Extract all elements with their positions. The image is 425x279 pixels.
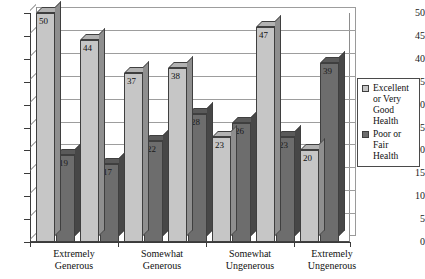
legend-label-line: Poor or — [373, 129, 416, 140]
category-label-line: Generous — [29, 260, 119, 272]
y-axis-tick — [24, 82, 30, 83]
legend-item[interactable]: Poor orFairHealth — [362, 129, 416, 162]
x-axis-category-label: SomewhatGenerous — [117, 248, 207, 272]
legend-item[interactable]: Excellentor VeryGoodHealth — [362, 83, 416, 127]
bar: 37 — [124, 73, 143, 242]
bar-value-label: 23 — [215, 141, 224, 150]
bar-value-label: 44 — [83, 44, 92, 53]
bar-side-face — [319, 138, 325, 236]
bar: 23 — [212, 137, 231, 242]
legend-label-line: Health — [373, 116, 416, 127]
legend-label-line: Health — [373, 151, 416, 162]
legend-item-label: Poor orFairHealth — [373, 129, 416, 162]
legend-label-line: Fair — [373, 140, 416, 151]
bar: 47 — [256, 27, 275, 242]
bar-front-face: 47 — [256, 27, 275, 242]
bar: 50 — [36, 13, 55, 242]
category-label-line: Generous — [117, 260, 207, 272]
gridline — [36, 7, 356, 8]
legend-item-label: Excellentor VeryGoodHealth — [373, 83, 416, 127]
bar-side-face — [119, 152, 125, 236]
category-label-line: Somewhat — [205, 248, 295, 260]
bar-side-face — [295, 125, 301, 236]
category-label-line: Extremely — [287, 248, 377, 260]
bar-value-label: 38 — [171, 72, 180, 81]
y-axis-tick — [24, 128, 30, 129]
bar-front-face: 20 — [300, 150, 319, 242]
x-axis-tick — [294, 243, 295, 247]
legend-swatch-icon — [362, 131, 369, 138]
y-axis-tick-label: 45 — [403, 31, 425, 41]
bar-front-face: 23 — [212, 137, 231, 242]
bar-front-face: 44 — [80, 40, 99, 242]
y-axis-tick-label: 15 — [403, 168, 425, 178]
x-axis-category-label: SomewhatUngenerous — [205, 248, 295, 272]
bar-value-label: 37 — [127, 77, 136, 86]
bar-front-face: 38 — [168, 68, 187, 242]
bar-side-face — [275, 15, 281, 236]
bar-side-face — [99, 28, 105, 236]
legend-label-line: or Very — [373, 94, 416, 105]
bar-side-face — [251, 111, 257, 236]
y-axis-tick — [24, 59, 30, 60]
bar: 44 — [80, 40, 99, 242]
category-label-line: Ungenerous — [205, 260, 295, 272]
y-axis-tick — [24, 13, 30, 14]
legend-label-line: Excellent — [373, 83, 416, 94]
bar-side-face — [207, 102, 213, 236]
x-axis-tick — [350, 243, 351, 247]
bar: 20 — [300, 150, 319, 242]
bar-value-label: 50 — [39, 17, 48, 26]
bar-side-face — [339, 51, 345, 236]
bar-side-face — [143, 61, 149, 236]
bar-side-face — [55, 1, 61, 236]
bar-side-face — [75, 143, 81, 236]
y-axis-tick — [24, 105, 30, 106]
y-axis-tick — [24, 219, 30, 220]
bar-side-face — [163, 129, 169, 236]
category-label-line: Ungenerous — [287, 260, 377, 272]
y-axis-line — [30, 13, 31, 243]
y-axis-tick — [24, 173, 30, 174]
gridline — [36, 30, 356, 31]
x-axis-category-label: ExtremelyUngenerous — [287, 248, 377, 272]
y-axis-tick — [24, 150, 30, 151]
bar-value-label: 39 — [323, 67, 332, 76]
x-axis-tick — [30, 243, 31, 247]
bar-chart: 05101520253035404550 5019441737223828232… — [0, 0, 425, 279]
y-axis-tick-label: 10 — [403, 191, 425, 201]
bar-side-face — [231, 125, 237, 236]
x-axis-line — [30, 242, 351, 243]
y-axis-tick-label: 5 — [403, 214, 425, 224]
bar-value-label: 20 — [303, 154, 312, 163]
legend-label-line: Good — [373, 105, 416, 116]
y-axis-tick — [24, 36, 30, 37]
y-axis-tick — [24, 196, 30, 197]
bar-side-face — [187, 56, 193, 236]
category-label-line: Somewhat — [117, 248, 207, 260]
chart-legend: Excellentor VeryGoodHealthPoor orFairHea… — [357, 78, 420, 167]
bar: 38 — [168, 68, 187, 242]
bar-value-label: 47 — [259, 31, 268, 40]
legend-swatch-icon — [362, 85, 369, 92]
y-axis-tick-label: 0 — [403, 237, 425, 247]
bar-front-face: 37 — [124, 73, 143, 242]
y-axis-tick-label: 40 — [403, 54, 425, 64]
category-label-line: Extremely — [29, 248, 119, 260]
x-axis-tick — [206, 243, 207, 247]
x-axis-category-label: ExtremelyGenerous — [29, 248, 119, 272]
x-axis-tick — [118, 243, 119, 247]
y-axis-tick-label: 50 — [403, 8, 425, 18]
bar-front-face: 50 — [36, 13, 55, 242]
